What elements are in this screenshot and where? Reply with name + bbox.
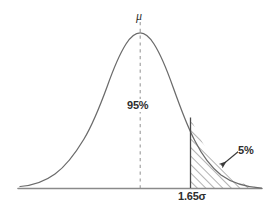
critical-value-label: 1.65σ [178,191,206,202]
mean-symbol-label: μ [134,10,144,22]
tail-area-label: 5% [238,145,254,156]
tail-callout-arrow [222,151,240,166]
normal-distribution-figure: μ 95% 1.65σ 5% [0,0,269,213]
confidence-region-label: 95% [124,99,151,112]
